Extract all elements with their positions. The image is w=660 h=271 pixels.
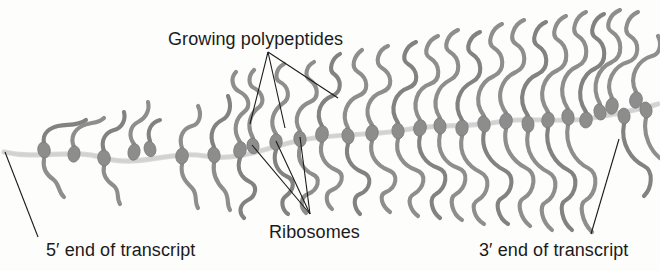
ribosome-group [36, 91, 653, 167]
polypeptide-chain [181, 106, 200, 148]
leader-line-five-prime [5, 152, 38, 237]
polypeptide-chain [182, 164, 198, 208]
ribosome [67, 145, 81, 163]
ribosome [97, 149, 111, 166]
ribosome [455, 119, 469, 136]
polypeptide-chain [104, 166, 120, 204]
label-growing-polypeptides: Growing polypeptides [168, 29, 343, 49]
polypeptide-chain [272, 64, 288, 134]
polypeptide-chain [239, 158, 255, 218]
polypeptide-chain [149, 120, 160, 141]
polypeptide-chain [371, 141, 395, 212]
polypeptide-chain [44, 159, 64, 197]
polypeptide-chain [367, 46, 390, 125]
polypeptide-chain [233, 72, 249, 142]
polypeptide-chain [345, 50, 367, 128]
polypeptide-chain [319, 54, 340, 126]
ribosome [142, 140, 157, 158]
label-ribosomes: Ribosomes [269, 222, 360, 242]
polypeptide-chain [393, 42, 416, 123]
ribosome [175, 147, 189, 164]
ribosome [499, 112, 514, 130]
label-five-prime-end: 5′ end of transcript [46, 240, 195, 260]
polypeptide-chain [44, 120, 86, 143]
ribosome [365, 124, 379, 142]
label-three-prime-end: 3′ end of transcript [479, 240, 628, 260]
ribosome [314, 125, 329, 143]
ribosome [561, 108, 575, 126]
polypeptide-chain [645, 118, 660, 158]
ribosome [412, 119, 428, 138]
polypeptide-chain [321, 142, 342, 209]
ribosome [341, 127, 356, 145]
polypeptide-chain [547, 128, 575, 230]
polypeptide-chain [212, 96, 230, 147]
ribosome [207, 146, 221, 164]
ribosome [433, 117, 447, 135]
polypeptide-chain [214, 163, 230, 210]
ribosome [579, 111, 593, 128]
polypeptide-chain [347, 144, 369, 214]
polypeptide-chain [457, 32, 480, 120]
ribosome [391, 123, 405, 140]
ribosome [541, 111, 556, 129]
ribosome [476, 115, 491, 134]
polypeptide-chain [567, 125, 595, 232]
polypeptide-chain [131, 102, 149, 144]
polyribosome-figure: Growing polypeptides Ribosomes 5′ end of… [0, 0, 660, 271]
